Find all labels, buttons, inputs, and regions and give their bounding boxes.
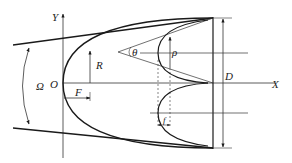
radius-label: R xyxy=(95,59,103,71)
rho-label: ρ xyxy=(171,46,177,58)
x-axis-label: X xyxy=(271,78,280,90)
small-offset-label: f xyxy=(163,115,167,125)
lower-tangent-line xyxy=(13,128,213,148)
upper-tangent-line xyxy=(13,18,213,45)
diameter-label: D xyxy=(224,70,233,82)
aperture-angle-label: Ω xyxy=(36,80,44,92)
origin-label: O xyxy=(50,78,58,90)
paraboloid-diagram: Y X O D Ω R F θ ρ f xyxy=(0,0,292,163)
y-axis-label: Y xyxy=(52,11,60,23)
theta-label: θ xyxy=(132,46,138,58)
aperture-angle-arc xyxy=(23,48,30,124)
focal-length-label: F xyxy=(74,86,82,98)
